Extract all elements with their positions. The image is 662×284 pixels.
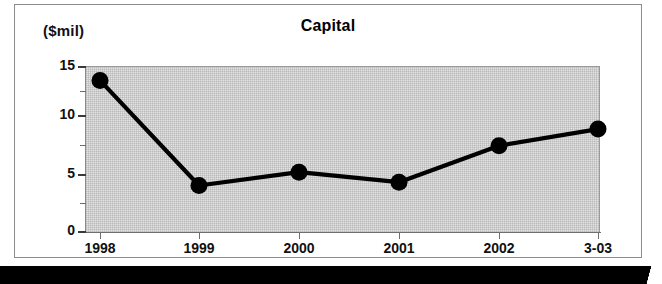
data-series-capital bbox=[15, 5, 641, 257]
data-point-3-03 bbox=[590, 121, 607, 138]
figure-canvas: Capital ($mil) 15 10 5 0 bbox=[0, 0, 662, 284]
data-point-2002 bbox=[491, 137, 508, 154]
chart-frame: Capital ($mil) 15 10 5 0 bbox=[14, 4, 642, 258]
page-footer-bar-taper bbox=[632, 266, 662, 284]
page-footer-bar bbox=[0, 266, 662, 284]
data-point-2000 bbox=[291, 164, 308, 181]
data-point-1999 bbox=[191, 177, 208, 194]
data-point-2001 bbox=[391, 174, 408, 191]
data-point-1998 bbox=[92, 72, 109, 89]
series-line bbox=[100, 80, 598, 185]
